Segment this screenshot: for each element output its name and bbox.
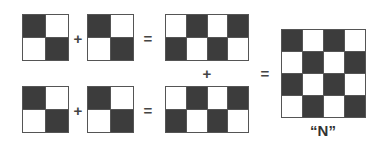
light-cell [111, 87, 133, 109]
dark-cell [282, 74, 302, 95]
dark-cell [111, 110, 133, 132]
light-cell [88, 110, 110, 132]
dark-cell [88, 15, 110, 37]
dark-cell [88, 87, 110, 109]
light-cell [324, 96, 344, 117]
light-cell [187, 38, 207, 60]
dark-cell [23, 87, 45, 109]
light-cell [324, 52, 344, 73]
light-cell [303, 30, 323, 51]
dark-cell [345, 52, 365, 73]
dark-cell [324, 74, 344, 95]
light-cell [166, 15, 186, 37]
light-cell [228, 110, 248, 132]
dark-cell [228, 15, 248, 37]
dark-cell [303, 52, 323, 73]
dark-cell [303, 96, 323, 117]
grid-top-b [87, 14, 134, 61]
dark-cell [111, 38, 133, 60]
light-cell [282, 96, 302, 117]
light-cell [46, 87, 68, 109]
light-cell [208, 87, 228, 109]
dark-cell [166, 38, 186, 60]
dark-cell [166, 110, 186, 132]
light-cell [88, 38, 110, 60]
light-cell [23, 38, 45, 60]
dark-cell [46, 38, 68, 60]
grid-result-n [281, 29, 366, 118]
plus-operator: + [74, 31, 83, 46]
dark-cell [208, 110, 228, 132]
dark-cell [228, 87, 248, 109]
equals-operator: = [261, 66, 270, 81]
light-cell [345, 74, 365, 95]
dark-cell [324, 30, 344, 51]
equals-operator: = [144, 31, 153, 46]
light-cell [46, 15, 68, 37]
dark-cell [282, 30, 302, 51]
grid-bottom-a [22, 86, 69, 133]
grid-top-a [22, 14, 69, 61]
dark-cell [187, 87, 207, 109]
dark-cell [23, 15, 45, 37]
light-cell [282, 52, 302, 73]
light-cell [111, 15, 133, 37]
light-cell [345, 30, 365, 51]
result-label: “N” [310, 122, 336, 139]
grid-top-sum [165, 14, 249, 61]
plus-operator: + [74, 103, 83, 118]
dark-cell [46, 110, 68, 132]
light-cell [228, 38, 248, 60]
dark-cell [187, 15, 207, 37]
grid-bottom-b [87, 86, 134, 133]
dark-cell [208, 38, 228, 60]
dark-cell [345, 96, 365, 117]
light-cell [303, 74, 323, 95]
grid-bottom-sum [165, 86, 249, 133]
plus-operator: + [203, 66, 212, 81]
equals-operator: = [144, 103, 153, 118]
light-cell [187, 110, 207, 132]
light-cell [166, 87, 186, 109]
light-cell [208, 15, 228, 37]
light-cell [23, 110, 45, 132]
